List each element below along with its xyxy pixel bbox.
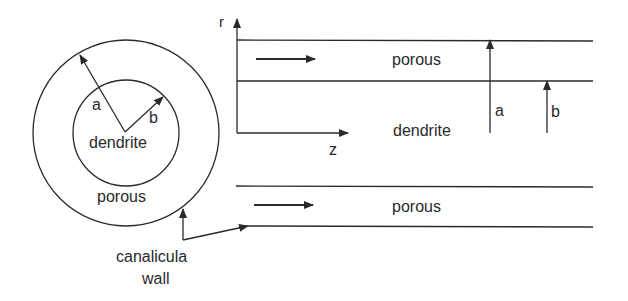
axis-r-label: r — [219, 14, 224, 29]
bottom-channel-outer-wall — [248, 226, 593, 227]
axis-z-label: z — [329, 142, 337, 158]
cross-radius-b-label: b — [149, 110, 158, 126]
bottom-channel-inner-wall — [236, 186, 593, 187]
middle-dendrite-label: dendrite — [393, 123, 451, 139]
callout-canalicula-label: canalicula — [116, 249, 187, 265]
top-porous-label: porous — [392, 52, 441, 68]
cross-porous-label: porous — [97, 189, 146, 205]
cross-dendrite-label: dendrite — [89, 135, 147, 151]
long-radius-b-label: b — [551, 104, 560, 120]
inner-circle-dendrite — [73, 80, 179, 186]
bottom-porous-label: porous — [392, 199, 441, 215]
cross-radius-a-label: a — [92, 97, 101, 113]
callout-to-channel-arrow — [183, 226, 248, 240]
long-radius-a-label: a — [495, 103, 504, 119]
callout-wall-label: wall — [142, 271, 170, 287]
radius-a-arrow — [80, 55, 125, 132]
top-channel-outer-wall — [237, 40, 593, 41]
